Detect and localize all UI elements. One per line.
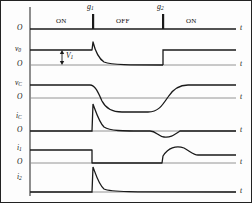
annotation-v1: V1 [66,52,73,61]
time-axis-label-2: t [240,60,242,68]
i2-sub: 2 [19,175,22,181]
y-label-vc: vC [15,79,22,88]
v0-sub: 0 [18,47,21,53]
trace-ic [30,104,236,137]
v1-double-arrow [60,50,64,65]
time-axis-label-3: t [240,93,242,101]
i1-sub: 1 [19,146,22,152]
i1-waveform [30,147,236,163]
gate-pulse-g2 [162,14,164,29]
y-label-i1: i1 [17,144,22,153]
region-label-on2: ON [186,18,197,25]
origin-label-v0: O [17,60,22,68]
g1-sub: 1 [91,5,94,11]
vc-waveform [30,85,236,112]
time-axis-label-6: t [240,187,242,195]
trace-i1 [30,147,236,163]
gate-pulse-g1 [92,14,94,29]
time-axis-label-4: t [240,126,242,134]
ic-waveform-dip [150,131,236,137]
trace-vc [30,85,236,112]
y-label-i2: i2 [17,173,22,182]
trace-i2 [30,167,236,192]
i2-waveform [30,167,236,192]
gate-label-g2: g2 [157,3,164,12]
origin-label-gate: O [17,24,22,32]
origin-label-ic: O [17,126,22,134]
ic-sub: C [18,114,22,120]
vc-sub: C [18,81,22,87]
figure-border [1,1,252,203]
time-axis-label-1: t [240,24,242,32]
y-label-ic: iC [16,112,22,121]
waveform-canvas [0,0,252,203]
region-label-on1: ON [56,18,67,25]
region-label-off: OFF [116,18,130,25]
trace-v0 [30,42,236,65]
v1-sub: 1 [71,54,74,60]
origin-label-vc: O [17,93,22,101]
v0-waveform-right [163,50,236,65]
v0-waveform-left [30,42,163,65]
ic-waveform-spike [30,104,150,131]
gate-label-g1: g1 [87,3,94,12]
y-label-v0: v0 [15,45,21,54]
waveform-figure: O ON OFF ON g1 g2 t v0 O V1 t vC O t iC … [0,0,252,203]
g2-sub: 2 [161,5,164,11]
origin-label-i1: O [17,158,22,166]
time-axis-label-5: t [240,158,242,166]
